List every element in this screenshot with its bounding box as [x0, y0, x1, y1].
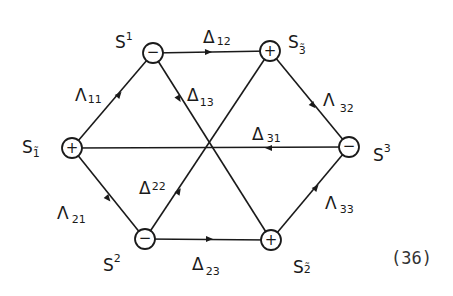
- equation-number: (36): [391, 248, 432, 268]
- sign-graph-diagram: − + + − − + S1 S3̃ S1̃ S3 S2 S2̃ Δ12 Λ11…: [0, 0, 453, 296]
- edge-lambda-32: [270, 51, 349, 147]
- edge-label-delta-22: Δ22: [139, 178, 166, 198]
- node-S3: −: [339, 137, 359, 157]
- edge-label-lambda-33: Λ33: [325, 193, 354, 216]
- node-label-S1-tilde: S1̃: [22, 137, 40, 160]
- edge-delta-31: [72, 147, 349, 148]
- arrow-icon: [265, 145, 272, 151]
- plus-icon: +: [264, 42, 277, 60]
- node-S2: −: [135, 229, 155, 249]
- plus-icon: +: [265, 231, 278, 249]
- edge-label-delta-31: Δ31: [252, 124, 281, 145]
- arrow-icon: [104, 194, 113, 203]
- node-label-S2: S2: [103, 252, 121, 275]
- node-label-S3-tilde: S3̃: [288, 32, 306, 57]
- edge-delta-22: [145, 51, 270, 239]
- minus-icon: −: [139, 229, 152, 247]
- node-label-S3: S3: [373, 142, 391, 165]
- node-label-S2-tilde: S2̃: [293, 257, 311, 277]
- node-S3-tilde: +: [260, 41, 280, 61]
- node-S1: −: [143, 43, 163, 63]
- arrow-icon: [206, 236, 213, 242]
- minus-icon: −: [147, 43, 160, 61]
- edge-delta-13: [153, 53, 271, 240]
- edge-label-lambda-11: Λ11: [75, 85, 102, 106]
- edge-lambda-33: [271, 147, 349, 240]
- edge-label-delta-13: Δ13: [187, 85, 214, 109]
- node-label-S1: S1: [115, 30, 133, 52]
- edges: [72, 51, 349, 240]
- edge-label-delta-12: Δ12: [203, 27, 231, 48]
- arrow-icon: [309, 101, 318, 110]
- minus-icon: −: [343, 137, 356, 155]
- node-S1-tilde: +: [62, 138, 82, 158]
- arrow-icon: [205, 49, 212, 55]
- plus-icon: +: [66, 139, 79, 157]
- edge-label-lambda-21: Λ21: [57, 203, 86, 226]
- edge-label-delta-23: Δ23: [192, 254, 220, 278]
- edge-label-lambda-32: Λ32: [323, 90, 354, 115]
- node-S2-tilde: +: [261, 230, 281, 250]
